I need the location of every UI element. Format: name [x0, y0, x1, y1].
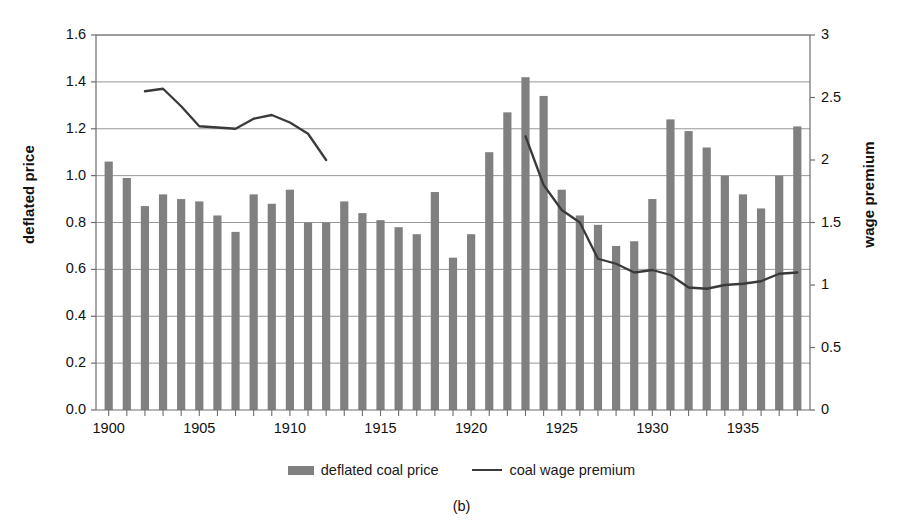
bar-1933: [703, 148, 711, 411]
figure-panel-b: deflated price wage premium 0.00.20.40.6…: [0, 0, 923, 529]
bar-1916: [395, 227, 403, 410]
bar-1909: [268, 204, 276, 410]
bar-1932: [684, 131, 692, 410]
bar-1918: [431, 192, 439, 410]
legend-line-swatch-icon: [472, 469, 502, 471]
legend-label: coal wage premium: [509, 462, 635, 478]
bar-1938: [793, 126, 801, 410]
bar-1914: [358, 213, 366, 410]
bar-1906: [213, 215, 221, 410]
chart-legend: deflated coal pricecoal wage premium: [0, 462, 923, 478]
bar-1920: [467, 234, 475, 410]
bar-1935: [739, 194, 747, 410]
legend-bar-swatch-icon: [288, 466, 314, 475]
bar-1929: [630, 241, 638, 410]
bar-1917: [413, 234, 421, 410]
bar-1904: [177, 199, 185, 410]
bar-1936: [757, 208, 765, 410]
chart-plot-area: [0, 0, 923, 529]
bar-1921: [485, 152, 493, 410]
bar-1901: [123, 178, 131, 410]
bar-1937: [775, 176, 783, 410]
legend-item-2[interactable]: coal wage premium: [472, 462, 635, 478]
bar-1913: [340, 201, 348, 410]
bar-1925: [558, 190, 566, 410]
bar-1911: [304, 223, 312, 411]
bar-1902: [141, 206, 149, 410]
bar-1912: [322, 223, 330, 411]
bar-1926: [576, 215, 584, 410]
figure-caption: (b): [0, 498, 923, 514]
bar-1928: [612, 246, 620, 410]
bar-1924: [540, 96, 548, 410]
bar-1915: [376, 220, 384, 410]
line-coal-wage-premium-segment-2: [525, 136, 797, 289]
bar-1923: [521, 77, 529, 410]
line-coal-wage-premium-segment-1: [145, 89, 326, 160]
bar-1900: [105, 162, 113, 410]
bar-1931: [666, 119, 674, 410]
bar-1919: [449, 258, 457, 410]
bar-1905: [195, 201, 203, 410]
bar-1934: [721, 176, 729, 410]
bar-1908: [250, 194, 258, 410]
bar-1930: [648, 199, 656, 410]
legend-label: deflated coal price: [321, 462, 439, 478]
bar-1922: [503, 112, 511, 410]
bar-1910: [286, 190, 294, 410]
legend-item-1[interactable]: deflated coal price: [288, 462, 439, 478]
bar-1907: [231, 232, 239, 410]
bar-1903: [159, 194, 167, 410]
